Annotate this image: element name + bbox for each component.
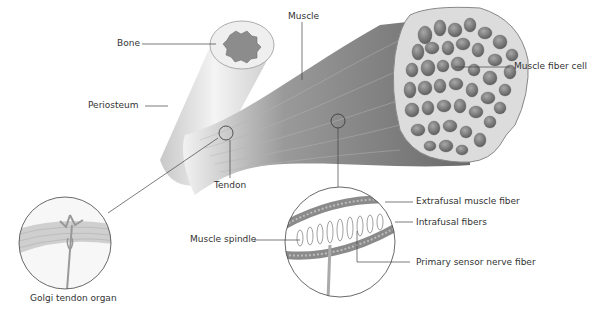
muscle-cross-section [393, 7, 528, 162]
muscle-spindle-detail [280, 185, 400, 305]
label-muscle-spindle: Muscle spindle [190, 234, 256, 245]
label-intrafusal-fibers: Intrafusal fibers [416, 217, 487, 228]
label-tendon: Tendon [214, 180, 246, 191]
label-bone: Bone [117, 38, 140, 49]
label-periosteum: Periosteum [88, 100, 139, 111]
label-muscle: Muscle [288, 11, 319, 22]
label-extrafusal-muscle-fiber: Extrafusal muscle fiber [416, 196, 520, 207]
label-muscle-fiber-cell: Muscle fiber cell [514, 61, 587, 72]
label-golgi-tendon-organ: Golgi tendon organ [30, 293, 117, 304]
label-primary-sensor-nerve-fiber: Primary sensor nerve fiber [416, 257, 536, 268]
golgi-tendon-organ-detail [15, 195, 120, 295]
